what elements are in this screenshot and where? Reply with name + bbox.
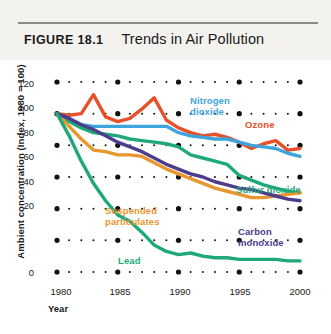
figure-number: FIGURE 18.1 — [24, 33, 103, 47]
series-label-suspended-particulates: Suspended particulates — [105, 206, 160, 227]
series-label-carbon-monoxide: Carbon monoxide — [238, 227, 284, 248]
series-label-nitrogen-dioxide: Nitrogen dioxide — [190, 96, 230, 117]
figure-title: Trends in Air Pollution — [121, 31, 264, 47]
chart-svg — [0, 60, 331, 334]
figure-caption: FIGURE 18.1Trends in Air Pollution — [24, 30, 314, 54]
series-label-lead: Lead — [118, 256, 141, 267]
header-divider — [18, 22, 318, 24]
chart-plot-area: Ambient concentration (Index, 1980 = 100… — [0, 60, 331, 334]
series-label-sulfur-dioxide: Sulfur dioxide — [236, 185, 301, 196]
figure-card: FIGURE 18.1Trends in Air Pollution Ambie… — [0, 0, 331, 334]
series-label-ozone: Ozone — [245, 120, 275, 131]
